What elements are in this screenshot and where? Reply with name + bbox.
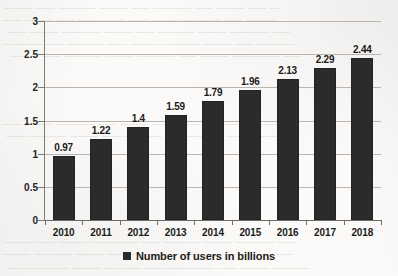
bar-value-label: 2.29	[302, 54, 348, 65]
bar-chart-figure: 00.511.522.53 0.971.221.41.591.791.962.1…	[0, 0, 398, 276]
y-axis-tick-label: 2.5	[8, 49, 38, 60]
gridline	[45, 21, 381, 22]
bar-value-label: 1.96	[227, 76, 273, 87]
bar-value-label: 1.59	[153, 101, 199, 112]
bar-value-label: 0.97	[41, 142, 87, 153]
y-axis-tick-label: 1	[8, 148, 38, 159]
x-axis-tick-mark	[157, 220, 158, 225]
bar-value-label: 2.44	[339, 44, 385, 55]
x-axis-tick-mark	[269, 220, 270, 225]
bar-value-label: 1.22	[78, 125, 124, 136]
x-axis-tick-mark	[344, 220, 345, 225]
bar	[239, 90, 261, 220]
bar	[314, 68, 336, 220]
x-axis-tick-mark	[82, 220, 83, 225]
x-axis-tick-mark	[232, 220, 233, 225]
bar-value-label: 2.13	[265, 65, 311, 76]
bar	[53, 156, 75, 220]
legend-label: Number of users in billions	[136, 250, 275, 262]
x-axis-tick-mark	[120, 220, 121, 225]
x-axis-tick-label: 2018	[339, 227, 385, 238]
bar	[351, 58, 373, 220]
x-axis-tick-mark	[381, 220, 382, 225]
legend-swatch-icon	[123, 252, 131, 260]
y-axis-tick-label: 0.5	[8, 181, 38, 192]
bar-value-label: 1.79	[190, 87, 236, 98]
x-axis-tick-mark	[306, 220, 307, 225]
bar	[165, 115, 187, 220]
bar	[202, 101, 224, 220]
y-axis-tick-label: 1.5	[8, 115, 38, 126]
y-axis-tick-label: 3	[8, 16, 38, 27]
bar	[127, 127, 149, 220]
y-axis-tick-label: 0	[8, 215, 38, 226]
bar	[277, 79, 299, 220]
chart-legend: Number of users in billions	[0, 250, 398, 262]
x-axis-line	[45, 220, 381, 221]
bar-value-label: 1.4	[115, 113, 161, 124]
bar	[90, 139, 112, 220]
plot-area	[45, 21, 381, 220]
x-axis-tick-mark	[194, 220, 195, 225]
y-axis-tick-label: 2	[8, 82, 38, 93]
x-axis-tick-mark	[45, 220, 46, 225]
